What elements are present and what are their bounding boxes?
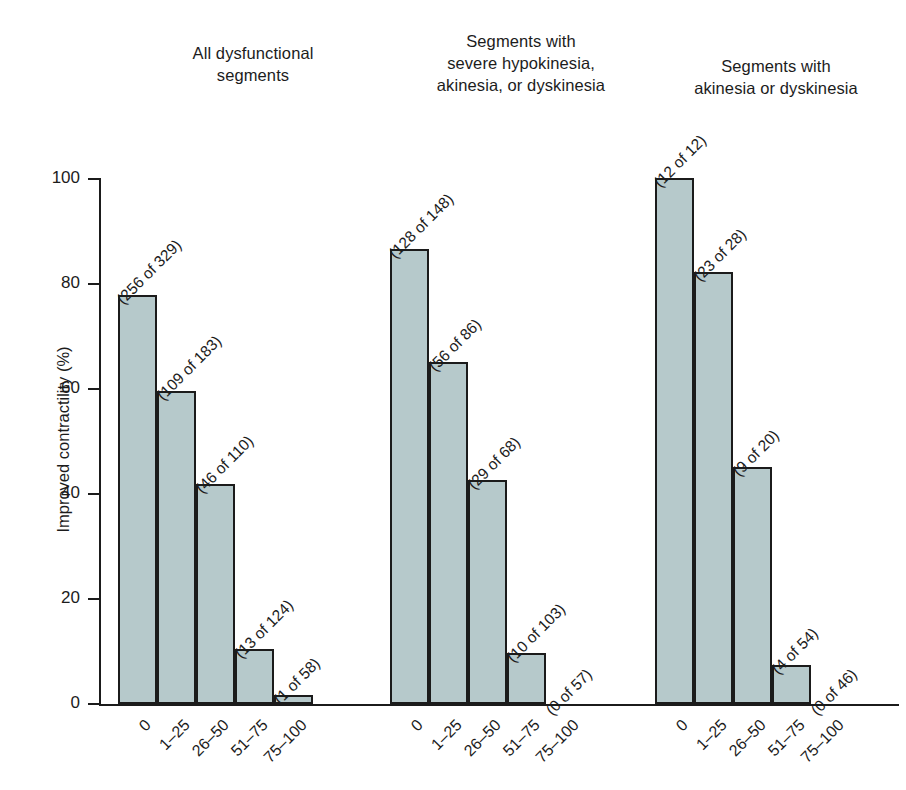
y-tick-label-100: 100 — [10, 168, 80, 188]
x-axis-line — [99, 704, 899, 706]
y-tick-label-60: 60 — [10, 378, 80, 398]
y-tick-0 — [88, 703, 100, 705]
y-axis-line — [99, 178, 101, 706]
y-tick-80 — [88, 283, 100, 285]
bar-panel2-cat0[interactable] — [390, 249, 429, 704]
y-tick-20 — [88, 598, 100, 600]
bar-panel3-cat2[interactable] — [733, 467, 772, 704]
panel3-title-line1: Segments with — [650, 55, 902, 77]
panel1-title-line1: All dysfunctional — [128, 42, 378, 64]
bar-panel2-cat1[interactable] — [429, 362, 468, 704]
y-tick-100 — [88, 178, 100, 180]
bar-panel1-cat1[interactable] — [157, 391, 196, 704]
y-tick-label-40: 40 — [10, 483, 80, 503]
panel-title-severe-hypokinesia: Segments with severe hypokinesia, akines… — [376, 30, 666, 96]
bar-panel2-cat2[interactable] — [468, 480, 507, 704]
y-axis-label: Improved contractility (%) — [54, 275, 73, 605]
panel1-title-line2: segments — [128, 64, 378, 86]
y-tick-40 — [88, 493, 100, 495]
bar-chart-figure: All dysfunctional segments Segments with… — [0, 0, 906, 790]
y-tick-60 — [88, 388, 100, 390]
panel2-title-line3: akinesia, or dyskinesia — [376, 74, 666, 96]
bar-panel3-cat1[interactable] — [694, 272, 733, 704]
y-tick-label-0: 0 — [10, 693, 80, 713]
panel-title-akinesia-dyskinesia: Segments with akinesia or dyskinesia — [650, 55, 902, 99]
y-tick-label-20: 20 — [10, 588, 80, 608]
value-label-panel3-cat4: (0 of 46) — [807, 665, 861, 719]
value-label-panel2-cat4: (0 of 57) — [542, 665, 596, 719]
bar-panel1-cat2[interactable] — [196, 484, 235, 704]
panel-title-all-dysfunctional-segments: All dysfunctional segments — [128, 42, 378, 86]
y-tick-label-80: 80 — [10, 273, 80, 293]
panel2-title-line2: severe hypokinesia, — [376, 52, 666, 74]
bar-panel1-cat0[interactable] — [118, 295, 157, 704]
bar-panel3-cat0[interactable] — [655, 178, 694, 704]
panel2-title-line1: Segments with — [376, 30, 666, 52]
panel3-title-line2: akinesia or dyskinesia — [650, 77, 902, 99]
